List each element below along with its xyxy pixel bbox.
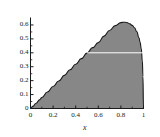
x-tick-label: 0.6 <box>86 112 110 119</box>
y-tick-label: 0.2 <box>20 77 29 84</box>
y-tick-label: 0.1 <box>20 91 29 98</box>
y-tick-label: 0.3 <box>20 63 29 70</box>
chart-figure: 00.10.20.30.40.50.6 00.20.40.60.81 x <box>0 0 160 137</box>
x-tick-label: 0.8 <box>109 112 133 119</box>
y-tick-label: 0.5 <box>20 35 29 42</box>
y-tick-label: 0 <box>25 105 29 112</box>
x-tick-label: 0.2 <box>41 112 65 119</box>
x-tick-label: 1 <box>132 112 156 119</box>
x-axis-title: x <box>83 124 87 132</box>
y-tick-label: 0.4 <box>20 49 29 56</box>
x-tick-label: 0.4 <box>64 112 88 119</box>
y-tick-label: 0.6 <box>20 21 29 28</box>
area-fill <box>31 22 144 108</box>
x-tick-label: 0 <box>19 112 43 119</box>
